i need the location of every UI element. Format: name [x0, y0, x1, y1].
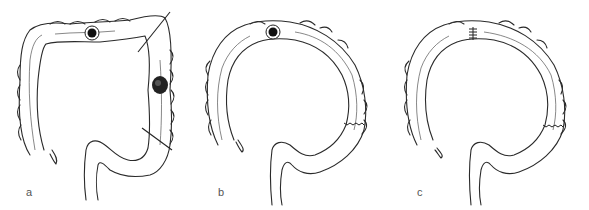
- colon-illustration-b: [190, 0, 386, 210]
- colon-illustration-a: [0, 0, 196, 210]
- stoma-icon: [266, 25, 280, 39]
- resection-line-lower: [142, 128, 172, 150]
- panel-label-b: b: [218, 186, 224, 198]
- stoma-icon: [85, 26, 99, 40]
- panel-label-c: c: [417, 186, 423, 198]
- closed-stoma-sutures-icon: [469, 27, 477, 40]
- tumor-icon: [152, 76, 168, 94]
- colon-illustration-c: [389, 0, 589, 210]
- panel-b: b: [190, 0, 386, 210]
- panel-c: c: [389, 0, 585, 210]
- panel-label-a: a: [26, 186, 32, 198]
- panel-a: a: [0, 0, 196, 210]
- resection-line-upper: [138, 12, 170, 52]
- anastomosis-suture-line: [543, 125, 563, 127]
